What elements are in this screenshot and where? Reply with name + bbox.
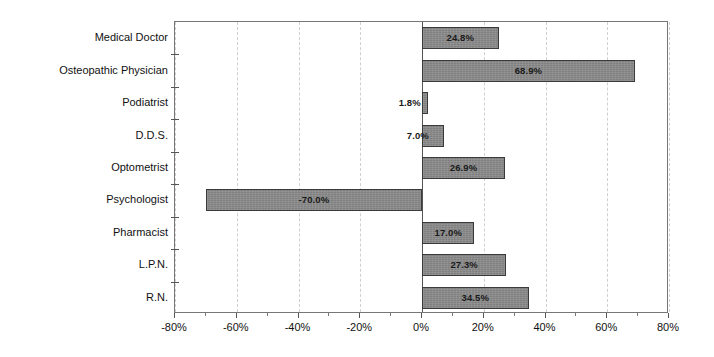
x-axis-minor-tick <box>390 313 391 316</box>
y-axis-tick <box>171 152 179 153</box>
x-axis-tick-label: -60% <box>223 321 249 333</box>
y-axis-tick <box>171 87 179 88</box>
category-label-d-d-s: D.D.S. <box>0 128 168 142</box>
x-axis-major-tick <box>606 313 607 318</box>
x-axis-tick-label: 80% <box>657 321 679 333</box>
category-label-osteopathic-physician: Osteopathic Physician <box>0 63 168 77</box>
x-axis-major-tick <box>421 313 422 318</box>
x-axis-tick-label: -20% <box>346 321 372 333</box>
category-label-pharmacist: Pharmacist <box>0 225 168 239</box>
x-axis-major-tick <box>236 313 237 318</box>
x-axis-tick-label: 40% <box>533 321 555 333</box>
x-axis-major-tick <box>298 313 299 318</box>
gridline--20 <box>360 22 361 312</box>
bar-value-label: 68.9% <box>422 60 635 82</box>
category-label-medical-doctor: Medical Doctor <box>0 30 168 44</box>
y-axis-tick <box>171 54 179 55</box>
x-axis-minor-tick <box>514 313 515 316</box>
x-axis-minor-tick <box>267 313 268 316</box>
x-axis-tick-label: 60% <box>595 321 617 333</box>
category-label-r-n: R.N. <box>0 290 168 304</box>
category-label-optometrist: Optometrist <box>0 160 168 174</box>
y-axis-tick <box>171 184 179 185</box>
y-axis-tick <box>171 119 179 120</box>
y-axis-tick <box>171 282 179 283</box>
x-axis: -80%-60%-40%-20%0%20%40%60%80% <box>174 313 668 353</box>
gridline--60 <box>237 22 238 312</box>
bar-value-label: 26.9% <box>422 157 505 179</box>
x-axis-major-tick <box>545 313 546 318</box>
x-axis-tick-label: 0% <box>413 321 429 333</box>
bar-value-label: 7.0% <box>392 125 444 147</box>
x-axis-minor-tick <box>452 313 453 316</box>
x-axis-major-tick <box>174 313 175 318</box>
bar-value-label: 24.8% <box>422 27 499 49</box>
gridline--40 <box>299 22 300 312</box>
y-axis-tick <box>171 217 179 218</box>
bar-value-label: 34.5% <box>422 287 529 309</box>
x-axis-minor-tick <box>575 313 576 316</box>
category-label-podiatrist: Podiatrist <box>0 95 168 109</box>
x-axis-minor-tick <box>328 313 329 316</box>
x-axis-minor-tick <box>205 313 206 316</box>
bar-value-label: 17.0% <box>422 222 474 244</box>
category-label-psychologist: Psychologist <box>0 192 168 206</box>
x-axis-minor-tick <box>637 313 638 316</box>
x-axis-major-tick <box>668 313 669 318</box>
x-axis-tick-label: -40% <box>285 321 311 333</box>
x-axis-major-tick <box>483 313 484 318</box>
bar-value-label: -70.0% <box>206 189 422 211</box>
gridline-80 <box>669 22 670 312</box>
plot-area: 24.8%68.9%1.8%7.0%26.9%-70.0%17.0%27.3%3… <box>174 21 668 313</box>
x-axis-tick-label: -80% <box>161 321 187 333</box>
x-axis-major-tick <box>359 313 360 318</box>
chart-screenshot: Medical DoctorOsteopathic PhysicianPodia… <box>0 0 714 357</box>
bar-value-label: 1.8% <box>392 92 428 114</box>
x-axis-tick-label: 20% <box>472 321 494 333</box>
bar-value-label: 27.3% <box>422 254 506 276</box>
gridline--80 <box>175 22 176 312</box>
y-axis-tick <box>171 249 179 250</box>
category-label-l-p-n: L.P.N. <box>0 257 168 271</box>
